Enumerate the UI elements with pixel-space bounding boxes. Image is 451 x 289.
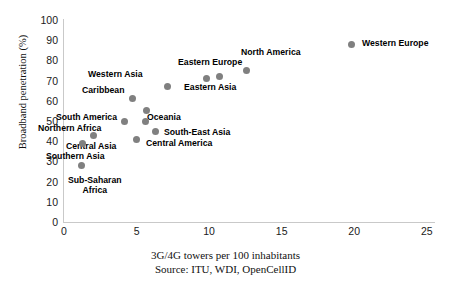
y-tick-label: 40: [32, 136, 58, 147]
x-tick-label: 25: [412, 226, 442, 237]
y-tick-label: 90: [32, 35, 58, 46]
x-tick-label: 10: [194, 226, 224, 237]
y-tick-label: 60: [32, 96, 58, 107]
y-tick-label: 20: [32, 177, 58, 188]
data-point-label: Caribbean: [82, 86, 124, 96]
y-axis-title: Broadband penetration (%): [17, 17, 29, 167]
x-axis-title: 3G/4G towers per 100 inhabitants: [0, 249, 451, 262]
data-point-label: South America: [56, 113, 117, 123]
data-point-label: Central Asia: [66, 142, 116, 152]
y-tick-label: 70: [32, 76, 58, 87]
data-point-label: Western Asia: [88, 70, 143, 80]
data-point-marker: [348, 41, 355, 48]
x-tick-label: 15: [267, 226, 297, 237]
data-point-marker: [90, 132, 97, 139]
x-axis-tick-labels: 0510152025: [0, 226, 451, 240]
data-point-label: Southern Asia: [46, 152, 105, 162]
data-point-label: Sub-Saharan Africa: [68, 176, 122, 195]
data-point-marker: [216, 73, 223, 80]
y-tick-label: 10: [32, 197, 58, 208]
data-point-label: Eastern Asia: [184, 83, 236, 93]
scatter-chart: Broadband penetration (%) 01020304050607…: [0, 0, 451, 289]
y-tick-label: 100: [32, 15, 58, 26]
x-tick-label: 0: [49, 226, 79, 237]
source-note: Source: ITU, WDI, OpenCellID: [0, 263, 451, 276]
y-tick-label: 80: [32, 55, 58, 66]
data-point-label: North America: [241, 48, 301, 58]
x-tick-label: 5: [122, 226, 152, 237]
data-point-marker: [152, 128, 159, 135]
data-point-marker: [142, 118, 149, 125]
x-tick-label: 20: [339, 226, 369, 237]
data-point-marker: [164, 83, 171, 90]
data-point-label: Oceania: [147, 113, 181, 123]
data-point-marker: [78, 162, 85, 169]
x-axis-line: [63, 222, 435, 223]
data-point-marker: [203, 75, 210, 82]
data-point-marker: [133, 136, 140, 143]
data-point-label: Eastern Europe: [178, 58, 242, 68]
data-point-label: South-East Asia: [164, 128, 230, 138]
data-point-marker: [121, 118, 128, 125]
data-point-label: Central America: [146, 139, 212, 149]
data-point-marker: [129, 95, 136, 102]
data-point-label: Western Europe: [362, 39, 428, 49]
